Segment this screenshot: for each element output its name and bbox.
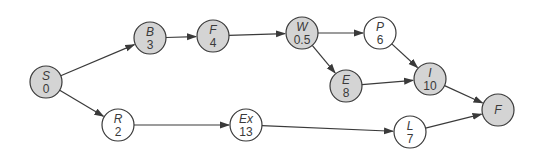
node-p: P6 bbox=[364, 17, 396, 49]
node-name: B bbox=[146, 25, 154, 39]
node-l: L7 bbox=[394, 116, 426, 148]
node-name: S bbox=[42, 69, 50, 83]
node-duration: 10 bbox=[423, 79, 437, 93]
node-name: E bbox=[342, 73, 351, 87]
node-i: I10 bbox=[414, 63, 446, 95]
node-name: W bbox=[296, 20, 309, 34]
node-duration: 13 bbox=[239, 125, 253, 139]
edge-w-to-e bbox=[312, 45, 335, 73]
nodes-layer: S0B3F4W0.5P6E8I10FR2Ex13L7 bbox=[30, 17, 514, 148]
node-e: E8 bbox=[330, 70, 362, 102]
node-duration: 0 bbox=[43, 82, 50, 96]
edge-b-to-f1 bbox=[166, 37, 196, 38]
node-name: F bbox=[494, 103, 502, 117]
edge-f1-to-w bbox=[229, 34, 285, 36]
node-name: F bbox=[209, 23, 217, 37]
node-duration: 0.5 bbox=[294, 33, 311, 47]
node-name: Ex bbox=[239, 112, 254, 126]
node-name: L bbox=[407, 119, 414, 133]
node-duration: 4 bbox=[210, 36, 217, 50]
node-duration: 8 bbox=[343, 86, 350, 100]
node-name: P bbox=[376, 20, 384, 34]
node-f2: F bbox=[482, 94, 514, 126]
node-name: R bbox=[114, 112, 123, 126]
node-duration: 7 bbox=[407, 132, 414, 146]
node-w: W0.5 bbox=[286, 17, 318, 49]
edge-p-to-i bbox=[392, 44, 418, 68]
node-r: R2 bbox=[102, 109, 134, 141]
node-duration: 3 bbox=[147, 38, 154, 52]
node-duration: 2 bbox=[115, 125, 122, 139]
node-ex: Ex13 bbox=[230, 109, 262, 141]
edge-s-to-b bbox=[61, 45, 135, 76]
activity-network-diagram: S0B3F4W0.5P6E8I10FR2Ex13L7 bbox=[0, 0, 539, 155]
node-s: S0 bbox=[30, 66, 62, 98]
edge-ex-to-l bbox=[262, 126, 393, 132]
edge-i-to-f2 bbox=[445, 86, 483, 103]
node-duration: 6 bbox=[377, 33, 384, 47]
edge-s-to-r bbox=[60, 90, 104, 116]
edge-l-to-f2 bbox=[426, 114, 482, 128]
edge-e-to-i bbox=[362, 80, 413, 84]
node-b: B3 bbox=[134, 22, 166, 54]
node-f1: F4 bbox=[197, 20, 229, 52]
